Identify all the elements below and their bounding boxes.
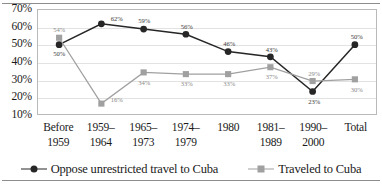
x-axis-category-line: 1959– [87,120,115,135]
data-point-marker [267,53,274,60]
data-point-marker [309,88,316,95]
x-axis-category-line: 1989 [257,135,285,150]
x-axis-category-line: 1959 [43,135,73,150]
plot-frame: 50%62%59%56%46%43%23%50%54%16%34%33%33%3… [37,9,377,115]
data-point-marker [310,78,316,84]
y-axis-tick: 40% [12,56,32,68]
data-point-marker [140,26,147,33]
data-point-label: 33% [223,80,235,87]
x-axis-category: 1980 [217,120,239,135]
x-axis-category: 1974–1979 [172,120,200,150]
x-axis-category: Before1959 [43,120,73,150]
data-point-label: 56% [181,23,193,30]
x-axis-category-line: 1973 [129,135,157,150]
data-point-marker [98,21,105,28]
x-axis-category: Total [345,120,367,135]
data-point-label: 59% [138,17,150,24]
chart-legend: Oppose unrestricted travel to Cuba Trave… [0,160,382,178]
x-axis-category-line: 1979 [172,135,200,150]
x-axis-category: 1959–1964 [87,120,115,150]
data-point-marker [267,64,273,70]
x-axis-category-line: 1990– [299,120,327,135]
data-point-marker [56,35,62,41]
x-axis-category-line: Before [43,120,73,135]
x-axis-category-line: 1965– [129,120,157,135]
data-point-label: 54% [53,26,65,33]
legend-item-oppose: Oppose unrestricted travel to Cuba [21,163,218,176]
x-axis-category-line: 2000 [299,135,327,150]
circle-marker-icon [21,164,47,174]
x-axis-category: 1990–2000 [299,120,327,150]
legend-label-oppose: Oppose unrestricted travel to Cuba [51,163,218,176]
plot-area-wrapper: 70%60%50%40%30%20%10% 50%62%59%56%46%43%… [0,9,382,121]
data-point-label: 50% [53,50,65,57]
x-axis-category: 1981–1989 [257,120,285,150]
data-point-label: 23% [308,98,320,105]
x-axis-category-line: Total [345,120,367,135]
data-point-label: 30% [351,86,363,93]
legend-item-traveled: Traveled to Cuba [248,163,361,176]
data-point-label: 34% [138,79,150,86]
y-axis-tick: 50% [12,39,32,51]
data-point-label: 16% [111,96,123,103]
data-point-marker [352,76,358,82]
x-axis-category-line: 1974– [172,120,200,135]
data-point-marker [183,71,189,77]
x-axis-category-line: 1981– [257,120,285,135]
x-axis-category-labels: Before19591959–19641965–19731974–1979198… [37,120,377,156]
data-point-label: 46% [223,40,235,47]
data-point-label: 43% [266,46,278,53]
data-point-marker [351,41,358,48]
y-axis-tick: 60% [12,21,32,33]
data-point-marker [182,31,189,38]
data-point-marker [225,48,232,55]
y-axis-tick-labels: 70%60%50%40%30%20%10% [0,9,34,121]
y-axis-tick: 30% [12,74,32,86]
bottom-divider-rule [2,180,380,181]
y-axis-tick: 10% [12,109,32,121]
x-axis-category: 1965–1973 [129,120,157,150]
data-point-label: 33% [181,80,193,87]
x-axis-category-line: 1980 [217,120,239,135]
y-axis-tick: 20% [12,92,32,104]
chart-figure: 70%60%50%40%30%20%10% 50%62%59%56%46%43%… [0,0,382,190]
square-marker-icon [248,164,274,174]
data-point-marker [225,71,231,77]
legend-label-traveled: Traveled to Cuba [278,163,361,176]
data-point-label: 62% [111,15,123,22]
top-divider-rule [2,3,380,4]
data-point-marker [141,69,147,75]
data-point-marker [98,101,104,107]
y-axis-tick: 70% [12,3,32,15]
chart-series-svg [38,10,376,114]
x-axis-category-line: 1964 [87,135,115,150]
data-point-label: 29% [308,70,320,77]
data-point-label: 37% [266,73,278,80]
data-point-label: 50% [351,33,363,40]
